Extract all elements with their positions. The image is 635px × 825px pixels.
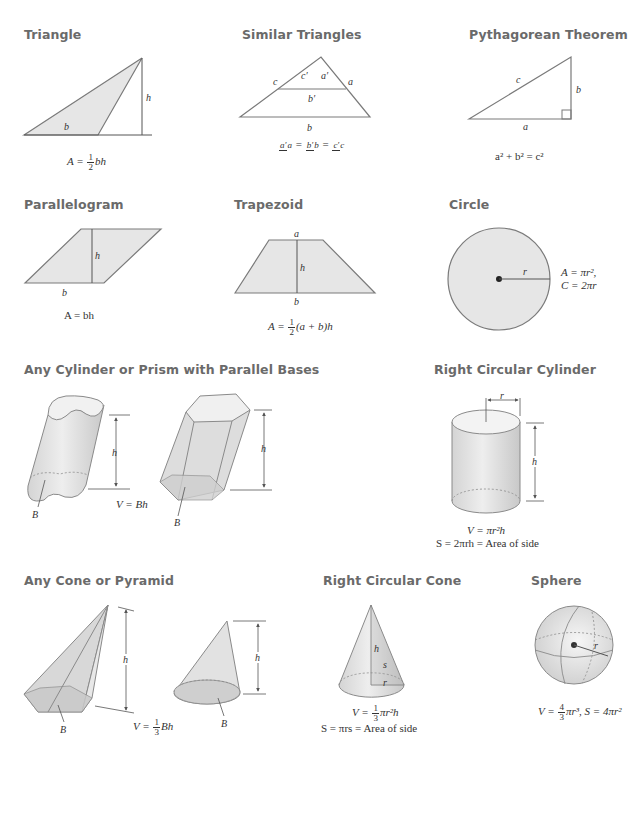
- trapezoid-label-b: b: [294, 296, 299, 307]
- sphere-formula: V = 43πr³, S = 4πr²: [538, 703, 622, 722]
- circle-label-r: r: [523, 266, 527, 277]
- parallelogram-label-b: b: [62, 287, 67, 298]
- similar-label-c: c: [273, 76, 277, 87]
- trapezoid-figure: [235, 240, 375, 293]
- cone-label-h: h: [255, 652, 260, 663]
- pythagorean-label-a: a: [523, 121, 528, 132]
- title-cylinder-prism: Any Cylinder or Prism with Parallel Base…: [24, 362, 319, 377]
- formula-sheet-diagrams: [0, 0, 635, 825]
- right-cylinder-volume-formula: V = πr²h: [467, 524, 505, 536]
- title-trapezoid: Trapezoid: [234, 197, 303, 212]
- right-cone-volume-formula: V = 13πr²h: [352, 704, 399, 723]
- title-cone-pyramid: Any Cone or Pyramid: [24, 573, 174, 588]
- pyramid-figure: [24, 605, 134, 722]
- right-cylinder-label-h: h: [532, 456, 537, 467]
- right-cylinder-area-formula: S = 2πrh = Area of side: [436, 537, 539, 549]
- pyramid-label-B: B: [60, 724, 66, 735]
- triangle-label-h: h: [146, 92, 151, 103]
- similar-label-b: b: [307, 122, 312, 133]
- sphere-label-r: r: [594, 640, 598, 651]
- pyramid-label-h: h: [123, 654, 128, 665]
- pythagorean-label-c: c: [516, 74, 520, 85]
- similar-triangles-figure: [240, 57, 370, 117]
- triangle-figure: [24, 58, 152, 135]
- triangle-formula: A = 12bh: [67, 153, 106, 172]
- right-cone-figure: [339, 605, 404, 697]
- pythagorean-label-b: b: [576, 84, 581, 95]
- trapezoid-label-h: h: [300, 262, 305, 273]
- similar-label-a-prime: a′: [321, 70, 328, 81]
- title-sphere: Sphere: [531, 573, 582, 588]
- title-parallelogram: Parallelogram: [24, 197, 124, 212]
- right-cone-label-h: h: [374, 643, 379, 654]
- title-pythagorean-theorem: Pythagorean Theorem: [469, 27, 628, 42]
- pythagorean-formula: a² + b² = c²: [495, 150, 544, 162]
- parallelogram-label-h: h: [95, 250, 100, 261]
- similar-label-c-prime: c′: [301, 70, 308, 81]
- circle-circumference-formula: C = 2πr: [561, 279, 597, 291]
- similar-label-a: a: [348, 76, 353, 87]
- cylinder-label-h: h: [112, 447, 117, 458]
- parallelogram-figure: [25, 229, 161, 283]
- right-triangle-figure: [469, 57, 571, 119]
- prism-label-h: h: [261, 443, 266, 454]
- cylinder-prism-formula: V = Bh: [116, 498, 148, 510]
- title-right-circular-cone: Right Circular Cone: [323, 573, 461, 588]
- right-cone-label-s: s: [383, 659, 387, 670]
- trapezoid-formula: A = 12(a + b)h: [268, 318, 333, 337]
- parallelogram-formula: A = bh: [64, 309, 94, 321]
- oblique-cone-figure: [174, 621, 266, 716]
- circle-area-formula: A = πr²,: [561, 266, 596, 278]
- right-cylinder-label-r: r: [500, 390, 504, 401]
- oblique-prism-figure: [160, 394, 272, 516]
- triangle-label-b: b: [64, 121, 69, 132]
- trapezoid-label-a: a: [294, 228, 299, 239]
- similar-triangles-formula: a′a = b′b = c′c: [278, 138, 345, 150]
- right-cone-area-formula: S = πrs = Area of side: [321, 722, 417, 734]
- cone-pyramid-formula: V = 13Bh: [133, 718, 173, 737]
- cone-label-B: B: [221, 718, 227, 729]
- sphere-figure: [535, 606, 613, 684]
- title-triangle: Triangle: [24, 27, 81, 42]
- title-circle: Circle: [449, 197, 489, 212]
- right-cylinder-figure: [452, 398, 544, 513]
- title-similar-triangles: Similar Triangles: [242, 27, 362, 42]
- circle-figure: [448, 228, 550, 330]
- right-cone-label-r: r: [383, 677, 387, 688]
- similar-label-b-prime: b′: [308, 93, 315, 104]
- prism-label-B: B: [174, 517, 180, 528]
- cylinder-label-B: B: [32, 509, 38, 520]
- title-right-circular-cylinder: Right Circular Cylinder: [434, 362, 596, 377]
